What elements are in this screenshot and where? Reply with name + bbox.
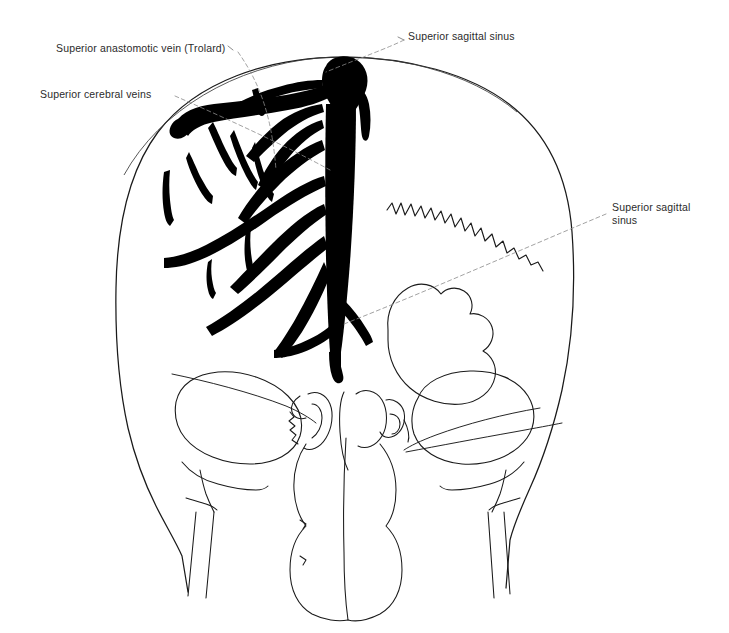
label-superior-cerebral-veins: Superior cerebral veins <box>40 88 151 101</box>
anatomical-figure: Superior anastomotic vein (Trolard) Supe… <box>0 0 729 633</box>
label-superior-sagittal-sinus-right: Superior sagittal sinus <box>612 201 690 227</box>
label-superior-anastomotic-vein: Superior anastomotic vein (Trolard) <box>56 42 225 55</box>
label-superior-sagittal-sinus-top: Superior sagittal sinus <box>408 30 515 43</box>
